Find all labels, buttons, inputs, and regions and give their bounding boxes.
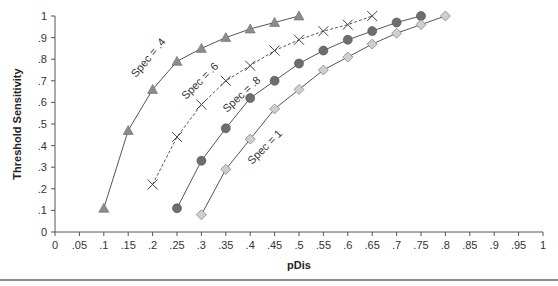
bottom-divider [0,279,558,281]
diamond-marker [440,11,450,21]
y-tick-label: .7 [38,75,47,87]
x-marker [270,46,280,56]
circle-marker [295,59,304,68]
x-tick-label: .5 [294,239,303,251]
x-marker [318,26,328,36]
diamond-marker [318,65,328,75]
y-tick-label: .3 [38,161,47,173]
triangle-marker [172,56,182,65]
line-chart: 0.05.1.15.2.25.3.35.4.45.5.55.6.65.7.75.… [0,0,558,286]
triangle-marker [123,125,133,134]
circle-marker [173,204,182,213]
x-marker [148,179,158,189]
y-tick-label: .8 [38,53,47,65]
series-label: Spec = .4 [128,36,167,80]
x-tick-label: .4 [246,239,255,251]
diamond-marker [416,20,426,30]
y-tick-label: .5 [38,118,47,130]
y-tick-label: .4 [38,140,47,152]
x-axis-title: pDis [287,259,311,271]
x-tick-label: .3 [197,239,206,251]
y-tick-label: .6 [38,96,47,108]
diamond-marker [343,52,353,62]
triangle-marker [196,43,206,52]
x-marker [221,76,231,86]
diamond-marker [392,28,402,38]
x-marker [294,35,304,45]
x-tick-label: .85 [462,239,477,251]
diamond-marker [221,164,231,174]
series-labels: Spec = .4Spec = .6Spec = .8Spec = 1 [128,36,284,167]
circle-marker [221,124,230,133]
diamond-marker [270,104,280,114]
triangle-marker [221,33,231,42]
x-tick-label: .75 [413,239,428,251]
circle-marker [368,27,377,36]
x-tick-label: .95 [511,239,526,251]
series-label: Spec = .6 [179,60,221,102]
circle-marker [343,35,352,44]
x-tick-label: .05 [72,239,87,251]
x-tick-label: .1 [99,239,108,251]
diamond-marker [245,134,255,144]
circle-marker [197,156,206,165]
series-label: Spec = 1 [245,127,284,166]
x-tick-label: .55 [316,239,331,251]
diamond-marker [196,210,206,220]
circle-marker [270,76,279,85]
series-line [177,16,421,208]
diamond-marker [294,84,304,94]
y-tick-label: .9 [38,32,47,44]
x-tick-label: .65 [365,239,380,251]
x-tick-label: .35 [218,239,233,251]
diamond-marker [367,39,377,49]
circle-marker [319,46,328,55]
y-tick-label: .1 [38,204,47,216]
x-marker [172,132,182,142]
triangle-marker [99,203,109,212]
x-marker [343,20,353,30]
series-spec-6 [148,11,378,189]
y-tick-label: 1 [41,10,47,22]
axes: 0.05.1.15.2.25.3.35.4.45.5.55.6.65.7.75.… [38,10,546,251]
x-tick-label: 0 [52,239,58,251]
circle-marker [392,18,401,27]
x-tick-label: .15 [121,239,136,251]
x-marker [196,100,206,110]
x-tick-label: .7 [392,239,401,251]
y-axis-title: Threshold Sensitivity [11,67,23,179]
x-tick-label: .2 [148,239,157,251]
x-tick-label: 1 [540,239,546,251]
x-tick-label: .25 [169,239,184,251]
triangle-marker [294,11,304,20]
x-marker [367,11,377,21]
x-tick-label: .45 [267,239,282,251]
series-layer [99,11,451,220]
x-marker [245,61,255,71]
x-tick-label: .9 [490,239,499,251]
x-tick-label: .8 [441,239,450,251]
y-tick-label: .2 [38,183,47,195]
x-tick-label: .6 [343,239,352,251]
series-spec-8 [173,12,426,213]
series-spec-1 [196,11,450,220]
y-tick-label: 0 [41,226,47,238]
